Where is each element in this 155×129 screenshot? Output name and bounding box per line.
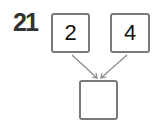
answer-box[interactable] — [79, 80, 118, 120]
arrows — [0, 0, 155, 129]
arrow-left-icon — [72, 55, 97, 78]
arrow-right-icon — [101, 55, 127, 78]
